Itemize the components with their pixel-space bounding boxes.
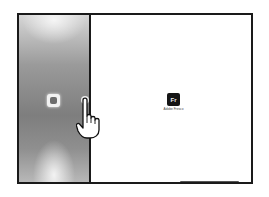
app-glyph-icon (50, 97, 57, 104)
adobe-fresco-app-icon[interactable]: Fr (167, 93, 180, 106)
split-view-right-pane[interactable]: Fr Adobe Fresco (91, 15, 251, 182)
app-icon-text: Fr (171, 97, 177, 103)
app-label: Adobe Fresco (157, 107, 190, 111)
hand-pointer-icon (76, 96, 106, 140)
ipad-screen: Fr Adobe Fresco (17, 13, 253, 184)
home-indicator[interactable] (180, 181, 239, 183)
left-app-icon[interactable] (47, 94, 60, 107)
